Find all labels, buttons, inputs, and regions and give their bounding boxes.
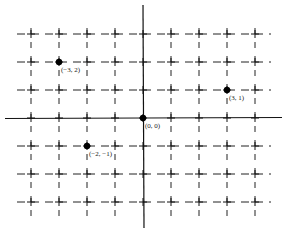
point-marker <box>140 115 146 121</box>
point-marker <box>84 143 90 149</box>
point-marker <box>224 87 230 93</box>
coordinate-plane: (−3, 2)(3, 1)(0, 0)(−2, −1) <box>0 0 287 235</box>
point-label: (−2, −1) <box>89 150 113 158</box>
point-label: (0, 0) <box>145 122 161 130</box>
plotted-points: (−3, 2)(3, 1)(0, 0)(−2, −1) <box>56 59 245 158</box>
point-label: (−3, 2) <box>61 66 81 74</box>
point-marker <box>56 59 62 65</box>
point-label: (3, 1) <box>229 94 245 102</box>
